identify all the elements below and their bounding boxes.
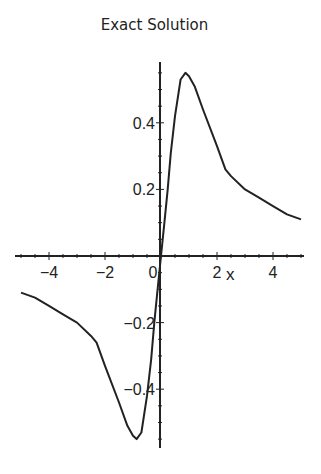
y-tick-label: −0.4 [123, 381, 155, 398]
x-tick-label: 2 [213, 264, 222, 281]
x-tick-label: −4 [40, 264, 58, 281]
y-tick-label: −0.2 [123, 315, 155, 332]
plot-area: −4−20240.40.2−0.2−0.4 x [0, 0, 321, 474]
x-tick-label: 0 [149, 264, 158, 281]
x-axis-label: x [226, 265, 235, 284]
y-tick-label: 0.4 [133, 115, 155, 132]
x-tick-label: 4 [269, 264, 278, 281]
axes [15, 62, 304, 448]
x-tick-label: −2 [96, 264, 114, 281]
y-tick-label: 0.2 [133, 181, 155, 198]
